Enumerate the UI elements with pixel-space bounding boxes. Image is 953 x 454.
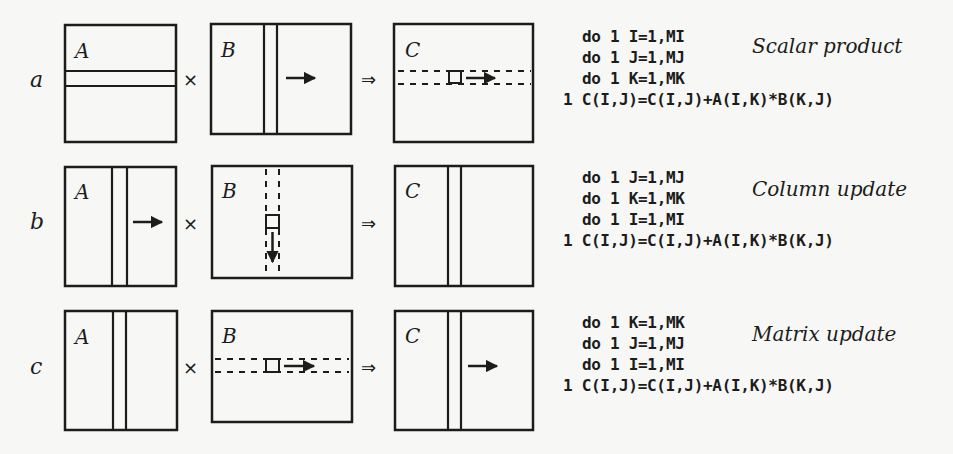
svg-text:do 1 K=1,MK: do 1 K=1,MK xyxy=(582,69,685,88)
matrix-c: C xyxy=(395,166,533,286)
row-title: Column update xyxy=(752,177,907,201)
implies-operator: ⇒ xyxy=(361,213,376,234)
element-square-icon xyxy=(449,71,461,83)
svg-text:do 1 J=1,MJ: do 1 J=1,MJ xyxy=(582,334,685,353)
matrix-a: A xyxy=(65,25,176,142)
row-title: Matrix update xyxy=(751,322,896,346)
svg-text:1 C(I,J)=C(I,J)+A(I,K)*B(K,J): 1 C(I,J)=C(I,J)+A(I,K)*B(K,J) xyxy=(563,90,834,109)
svg-text:1 C(I,J)=C(I,J)+A(I,K)*B(K,J): 1 C(I,J)=C(I,J)+A(I,K)*B(K,J) xyxy=(563,231,834,250)
element-square-icon xyxy=(266,359,279,372)
matrix-c: C xyxy=(395,311,533,430)
matrix-b: B xyxy=(211,24,351,134)
svg-text:do 1 I=1,MI: do 1 I=1,MI xyxy=(582,355,685,374)
matrix-a: A xyxy=(65,311,177,430)
matrix-label: B xyxy=(221,324,237,348)
implies-operator: ⇒ xyxy=(361,357,376,378)
matrix-a: A xyxy=(65,167,176,286)
svg-text:do 1 I=1,MI: do 1 I=1,MI xyxy=(582,210,685,229)
matrix-label: A xyxy=(73,39,89,63)
matrix-label: C xyxy=(405,38,420,62)
implies-operator: ⇒ xyxy=(361,69,376,90)
times-operator: × xyxy=(183,213,198,234)
times-operator: × xyxy=(183,357,198,378)
element-square-icon xyxy=(266,215,279,228)
row-label: b xyxy=(30,209,44,234)
matrix-c: C xyxy=(394,24,533,142)
matrix-label: C xyxy=(405,179,420,203)
matrix-multiplication-loop-orderings-diagram: a A × B ⇒ C do 1 I=1,MI do 1 J=1,MJ xyxy=(0,0,953,454)
matrix-label: B xyxy=(220,38,236,62)
svg-text:do 1 J=1,MJ: do 1 J=1,MJ xyxy=(582,168,685,187)
matrix-label: B xyxy=(221,179,237,203)
svg-text:do 1 I=1,MI: do 1 I=1,MI xyxy=(582,27,685,46)
svg-text:1 C(I,J)=C(I,J)+A(I,K)*B(K,J): 1 C(I,J)=C(I,J)+A(I,K)*B(K,J) xyxy=(563,376,834,395)
row-a: a A × B ⇒ C do 1 I=1,MI do 1 J=1,MJ xyxy=(30,24,903,142)
matrix-label: C xyxy=(405,324,420,348)
times-operator: × xyxy=(183,69,198,90)
row-label: a xyxy=(30,67,43,92)
svg-text:do 1 K=1,MK: do 1 K=1,MK xyxy=(582,313,685,332)
matrix-b: B xyxy=(212,166,352,278)
row-c: c A × B ⇒ C do 1 K=1,MK do 1 J=1,MJ xyxy=(30,311,896,430)
matrix-label: A xyxy=(73,180,89,204)
row-title: Scalar product xyxy=(752,34,903,58)
row-label: c xyxy=(30,354,42,379)
row-b: b A × B ⇒ C do 1 J=1,MJ do 1 K=1,MK xyxy=(30,166,907,286)
matrix-label: A xyxy=(73,325,89,349)
svg-text:do 1 K=1,MK: do 1 K=1,MK xyxy=(582,189,685,208)
svg-text:do 1 J=1,MJ: do 1 J=1,MJ xyxy=(582,48,685,67)
matrix-b: B xyxy=(212,311,352,422)
